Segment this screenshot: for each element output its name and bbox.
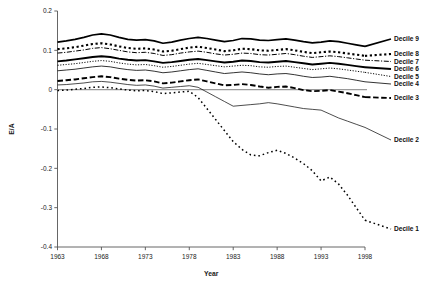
y-tick-label: -0.2: [41, 165, 53, 172]
tick-labels: 0.20.10-0.1-0.2-0.3-0.419631968197319781…: [41, 7, 373, 259]
x-tick-label: 1993: [314, 253, 329, 260]
legend-entry: Decile 4: [365, 80, 419, 87]
legend-leader-line: [365, 54, 391, 56]
x-tick-label: 1963: [50, 253, 65, 260]
legend-leader-line: [365, 97, 391, 98]
legend-leader-line: [365, 220, 391, 229]
series-line-decile-2: [58, 81, 366, 127]
line-chart: 0.20.10-0.1-0.2-0.3-0.419631968197319781…: [0, 0, 431, 291]
series-line-decile-9: [58, 34, 366, 47]
legend-leader-line: [365, 67, 391, 69]
legend-leader-line: [365, 72, 391, 76]
y-tick-label: 0: [48, 86, 52, 93]
y-tick-label: 0.2: [43, 7, 52, 14]
series-line-decile-8: [58, 43, 366, 56]
x-tick-label: 1988: [270, 253, 285, 260]
x-tick-label: 1968: [94, 253, 109, 260]
legend-entry: Decile 2: [365, 127, 419, 143]
x-tick-label: 1973: [138, 253, 153, 260]
x-tick-label: 1998: [358, 253, 373, 260]
legend-leader-line: [365, 82, 391, 84]
legend-label: Decile 1: [394, 225, 419, 232]
legend-entry: Decile 8: [365, 50, 419, 57]
series-line-decile-6: [58, 56, 366, 67]
chart-legend: Decile 9Decile 8Decile 7Decile 6Decile 5…: [365, 35, 419, 232]
legend-entry: Decile 1: [365, 220, 419, 232]
legend-leader-line: [365, 39, 391, 46]
legend-label: Decile 7: [394, 58, 419, 65]
legend-entry: Decile 6: [365, 65, 419, 72]
legend-leader-line: [365, 60, 391, 61]
legend-label: Decile 2: [394, 136, 419, 143]
y-tick-label: 0.1: [43, 47, 52, 54]
y-axis-title: E/A: [8, 123, 15, 134]
legend-label: Decile 9: [394, 35, 419, 42]
series-line-decile-4: [58, 66, 366, 82]
legend-label: Decile 5: [394, 73, 419, 80]
legend-label: Decile 8: [394, 50, 419, 57]
x-tick-label: 1978: [182, 253, 197, 260]
y-tick-label: -0.3: [41, 204, 53, 211]
y-tick-label: -0.1: [41, 125, 53, 132]
legend-entry: Decile 5: [365, 72, 419, 80]
x-axis-title: Year: [204, 270, 219, 277]
legend-entry: Decile 9: [365, 35, 419, 46]
legend-label: Decile 4: [394, 80, 419, 87]
axes: [54, 11, 365, 250]
y-tick-label: -0.4: [41, 243, 53, 250]
x-tick-label: 1983: [226, 253, 241, 260]
series-lines: [58, 34, 366, 220]
chart-container: 0.20.10-0.1-0.2-0.3-0.419631968197319781…: [0, 0, 431, 291]
legend-entry: Decile 7: [365, 58, 419, 65]
legend-label: Decile 6: [394, 65, 419, 72]
legend-entry: Decile 3: [365, 94, 419, 101]
series-line-decile-1: [58, 87, 366, 220]
legend-label: Decile 3: [394, 94, 419, 101]
legend-leader-line: [365, 127, 391, 140]
